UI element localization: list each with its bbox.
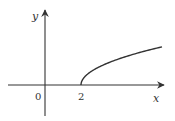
sqrt-curve [81,47,162,85]
y-axis-label: y [31,10,39,23]
tick-label-2: 2 [78,91,84,102]
origin-label: 0 [35,91,41,102]
x-axis-label: x [153,92,160,105]
function-graph: y x 0 2 [0,0,175,121]
